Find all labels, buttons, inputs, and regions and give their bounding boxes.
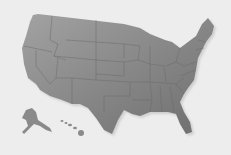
- us-map-svg: [0, 0, 231, 155]
- alaska: [22, 108, 52, 134]
- us-map: [0, 0, 231, 155]
- hawaii: [61, 120, 85, 136]
